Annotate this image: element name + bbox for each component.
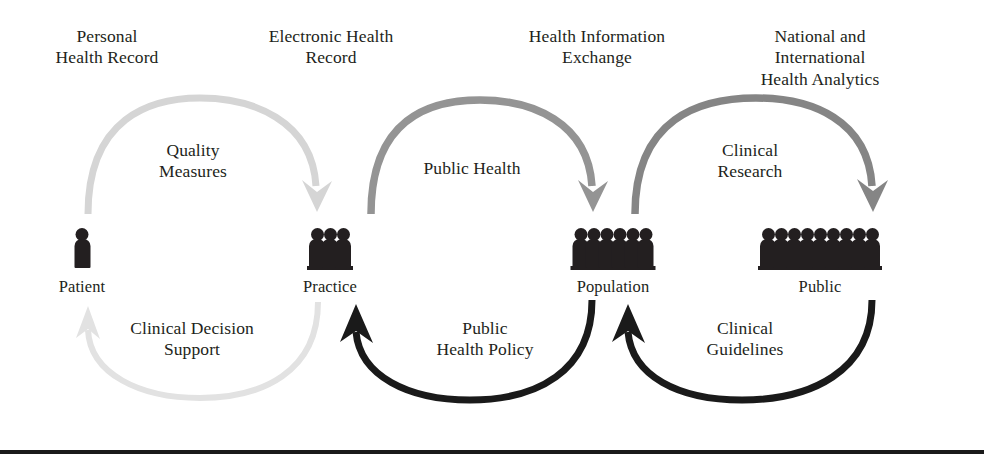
actor-group-practice	[307, 228, 353, 270]
flow-label-public-health-policy: Public Health Policy	[436, 318, 533, 361]
actor-group-population	[571, 228, 656, 270]
people-icon-public	[758, 228, 882, 268]
tier-label-health-information-exchange: Health Information Exchange	[529, 26, 665, 69]
flow-label-quality-measures: Quality Measures	[159, 140, 227, 183]
tier-label-national-international-health-analytics: National and International Health Analyt…	[738, 26, 902, 90]
tier-label-electronic-health-record: Electronic Health Record	[269, 26, 394, 69]
actor-label-population: Population	[577, 277, 650, 297]
people-icon-practice	[307, 228, 353, 268]
arrow-public-health	[371, 100, 608, 214]
flow-label-clinical-research: Clinical Research	[718, 140, 783, 183]
actor-label-patient: Patient	[59, 277, 106, 297]
person-figure	[335, 228, 351, 268]
person-figure	[638, 228, 654, 268]
person-figure	[864, 228, 880, 268]
actor-group-public	[758, 228, 882, 270]
flow-label-public-health: Public Health	[423, 158, 520, 179]
person-body	[335, 239, 351, 268]
actor-group-patient	[76, 228, 89, 268]
person-figure	[74, 228, 90, 268]
actor-label-practice: Practice	[303, 277, 357, 297]
person-body	[74, 239, 90, 268]
people-icon-population	[571, 228, 656, 268]
flow-label-clinical-guidelines: Clinical Guidelines	[707, 318, 784, 361]
tier-label-personal-health-record: Personal Health Record	[56, 26, 159, 69]
diagram-canvas: Personal Health Record Electronic Health…	[0, 0, 984, 463]
actor-label-public: Public	[799, 277, 842, 297]
person-body	[864, 239, 880, 268]
flow-label-clinical-decision-support: Clinical Decision Support	[130, 318, 254, 361]
people-icon-patient	[76, 228, 89, 268]
person-body	[638, 239, 654, 268]
bottom-divider-rule	[0, 450, 984, 454]
